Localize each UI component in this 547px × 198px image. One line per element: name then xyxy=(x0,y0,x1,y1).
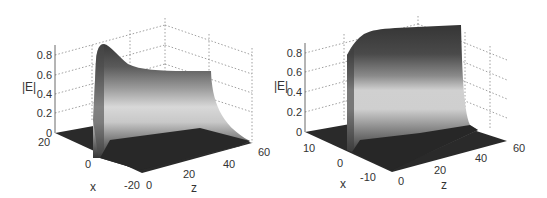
right-pulse-leading-edge xyxy=(347,47,354,150)
tick-label: 0 xyxy=(296,126,302,138)
tick-label: 10 xyxy=(303,142,315,154)
tick-label: 0 xyxy=(337,157,343,169)
tick-label: 0.6 xyxy=(287,66,302,78)
tick-label: 20 xyxy=(434,164,446,176)
right-e-ticks: 0.8 0.6 0.4 0.2 0 xyxy=(287,47,302,138)
right-x-axis-label: x xyxy=(340,177,346,191)
tick-label: 0.2 xyxy=(287,106,302,118)
tick-label: -20 xyxy=(124,179,140,191)
right-e-axis-label: |E| xyxy=(274,79,288,93)
tick-label: 0.4 xyxy=(287,86,302,98)
left-plot: 0.8 0.6 0.4 0.2 0 |E| 20 0 -20 x 0 20 40… xyxy=(22,18,270,195)
tick-label: 20 xyxy=(38,136,50,148)
figure: 0.8 0.6 0.4 0.2 0 |E| 20 0 -20 x 0 20 40… xyxy=(0,0,547,198)
left-e-ticks: 0.8 0.6 0.4 0.2 0 xyxy=(37,49,52,139)
tick-label: 0.8 xyxy=(287,47,302,59)
tick-label: 0 xyxy=(85,158,91,170)
tick-label: 0 xyxy=(398,175,404,187)
left-e-axis-label: |E| xyxy=(22,80,36,94)
tick-label: 0 xyxy=(146,179,152,191)
tick-label: 40 xyxy=(223,158,235,170)
left-z-axis-label: z xyxy=(191,181,197,195)
right-plot: 0.8 0.6 0.4 0.2 0 |E| 10 0 -10 x 0 20 40… xyxy=(274,16,525,192)
tick-label: 0.2 xyxy=(37,107,52,119)
tick-label: 60 xyxy=(513,142,525,154)
tick-label: 60 xyxy=(258,146,270,158)
left-x-axis-label: x xyxy=(90,180,96,194)
tick-label: -10 xyxy=(360,171,376,183)
tick-label: 20 xyxy=(183,168,195,180)
tick-label: 40 xyxy=(475,152,487,164)
tick-label: 0.8 xyxy=(37,49,52,61)
tick-label: 0.4 xyxy=(37,88,52,100)
tick-label: 0.6 xyxy=(37,69,52,81)
right-z-axis-label: z xyxy=(441,178,447,192)
